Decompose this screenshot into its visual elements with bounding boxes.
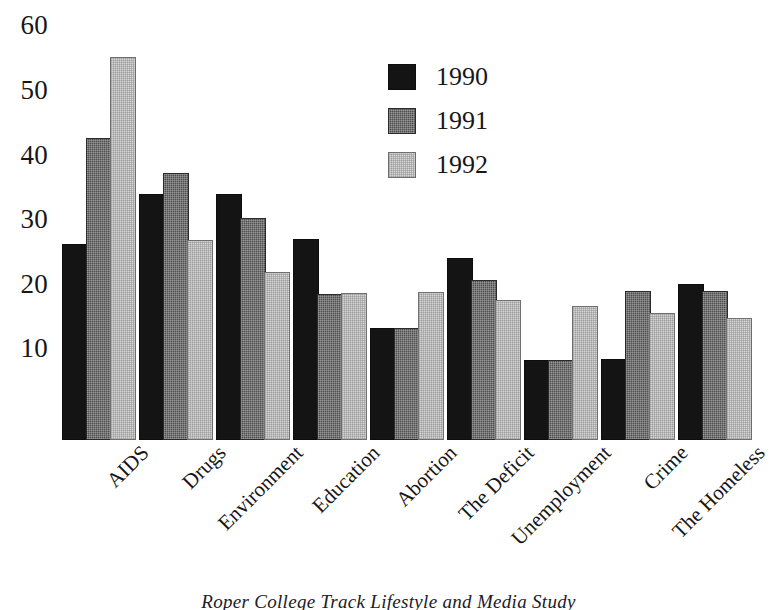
x-axis-label-crime: Crime [640, 442, 692, 494]
y-axis-tick-label: 60 [21, 12, 48, 39]
legend: 199019911992 [388, 60, 538, 192]
bar-drugs-1990 [139, 194, 165, 440]
legend-swatch-icon-1990 [388, 64, 416, 90]
bar-group [62, 20, 134, 440]
x-axis-category-labels: AIDSDrugsEnvironmentEducationAbortionThe… [60, 442, 760, 572]
y-axis-tick-label: 40 [21, 141, 48, 168]
bar-group [139, 20, 211, 440]
bar-the-deficit-1992 [495, 300, 521, 440]
bar-the-deficit-1990 [447, 258, 473, 440]
bar-crime-1990 [601, 359, 627, 440]
legend-label: 1991 [436, 108, 488, 134]
bar-the-homeless-1991 [702, 291, 728, 440]
y-axis-tick-label: 10 [21, 335, 48, 362]
figure-caption: Roper College Track Lifestyle and Media … [0, 592, 777, 610]
legend-entry-1992: 1992 [388, 148, 538, 182]
x-axis-label-drugs: Drugs [179, 442, 230, 493]
bar-aids-1991 [86, 138, 112, 440]
bar-environment-1991 [240, 218, 266, 440]
bar-aids-1992 [110, 57, 136, 440]
y-axis-tick-label: 30 [21, 206, 48, 233]
legend-swatch-icon-1992 [388, 152, 416, 178]
x-axis-label-aids: AIDS [103, 442, 153, 492]
bar-education-1992 [341, 293, 367, 440]
bar-the-homeless-1992 [726, 318, 752, 440]
bar-drugs-1991 [163, 173, 189, 440]
bar-education-1990 [293, 239, 319, 440]
legend-entry-1991: 1991 [388, 104, 538, 138]
bar-unemployment-1992 [572, 306, 598, 440]
bar-group [601, 20, 673, 440]
bar-chart-figure: 102030405060 AIDSDrugsEnvironmentEducati… [0, 0, 777, 610]
bar-the-homeless-1990 [678, 284, 704, 440]
x-axis-label-education: Education [309, 442, 384, 517]
legend-entry-1990: 1990 [388, 60, 538, 94]
bar-environment-1990 [216, 194, 242, 440]
y-axis-tick-label: 20 [21, 270, 48, 297]
bar-crime-1992 [649, 313, 675, 440]
y-axis-tick-label: 50 [21, 76, 48, 103]
bar-group [216, 20, 288, 440]
bar-unemployment-1991 [548, 360, 574, 440]
bar-abortion-1992 [418, 292, 444, 440]
bar-group [678, 20, 750, 440]
legend-label: 1992 [436, 152, 488, 178]
bar-abortion-1991 [394, 328, 420, 440]
x-axis-label-abortion: Abortion [392, 442, 460, 510]
bar-abortion-1990 [370, 328, 396, 440]
bar-group [293, 20, 365, 440]
bar-crime-1991 [625, 291, 651, 440]
bar-drugs-1992 [187, 240, 213, 440]
bar-education-1991 [317, 294, 343, 440]
legend-swatch-icon-1991 [388, 108, 416, 134]
legend-label: 1990 [436, 64, 488, 90]
bar-unemployment-1990 [524, 360, 550, 440]
bar-aids-1990 [62, 244, 88, 440]
bar-the-deficit-1991 [471, 280, 497, 440]
bar-environment-1992 [264, 272, 290, 440]
